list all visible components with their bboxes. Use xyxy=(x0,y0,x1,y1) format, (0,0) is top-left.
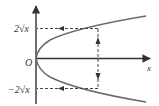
upper-left-arrowhead-icon xyxy=(58,26,64,31)
lower-branch-label: −2√x xyxy=(8,84,30,95)
parabola-diagram: 2√x −2√x O x xyxy=(0,0,159,106)
origin-label: O xyxy=(25,57,32,68)
down-arrowhead-icon xyxy=(96,73,101,80)
up-arrowhead-icon xyxy=(96,37,101,44)
x-axis-label: x xyxy=(146,63,151,73)
lower-left-arrowhead-icon xyxy=(58,86,64,91)
upper-branch-label: 2√x xyxy=(14,23,29,34)
